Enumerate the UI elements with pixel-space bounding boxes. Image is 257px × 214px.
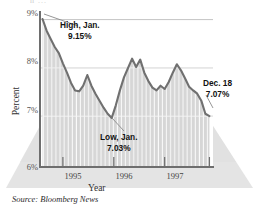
- annotation-last-label: Dec. 18: [203, 78, 232, 88]
- annotation-low-value: 7.03%: [100, 143, 138, 154]
- annotation-last-point: Dec. 18 7.07%: [203, 78, 232, 99]
- y-tick-label: 7%: [27, 105, 38, 115]
- mortgage-rate-chart-figure: h ...: [0, 0, 257, 214]
- annotation-low-label: Low, Jan.: [100, 132, 138, 142]
- annotation-last-value: 7.07%: [203, 89, 232, 100]
- annotation-high: High, Jan. 9.15%: [60, 20, 100, 41]
- y-tick-label: 6%: [27, 162, 38, 172]
- x-axis-title: Year: [88, 183, 106, 193]
- x-tick-label: 1995: [53, 171, 93, 181]
- source-note: Source: Bloomberg News: [12, 194, 98, 204]
- x-tick-label: 1996: [104, 171, 144, 181]
- cropped-headline-text: h ...: [30, 0, 160, 6]
- annotation-high-value: 9.15%: [60, 31, 100, 42]
- y-axis-line: [39, 11, 41, 167]
- annotation-low: Low, Jan. 7.03%: [100, 132, 138, 153]
- x-axis-line: [39, 166, 214, 168]
- y-tick-label: 8%: [27, 56, 38, 66]
- x-tick-label: 1997: [155, 171, 195, 181]
- y-axis-title: Percent: [11, 73, 21, 129]
- annotation-high-label: High, Jan.: [60, 20, 100, 30]
- y-tick-label: 9%: [27, 8, 38, 18]
